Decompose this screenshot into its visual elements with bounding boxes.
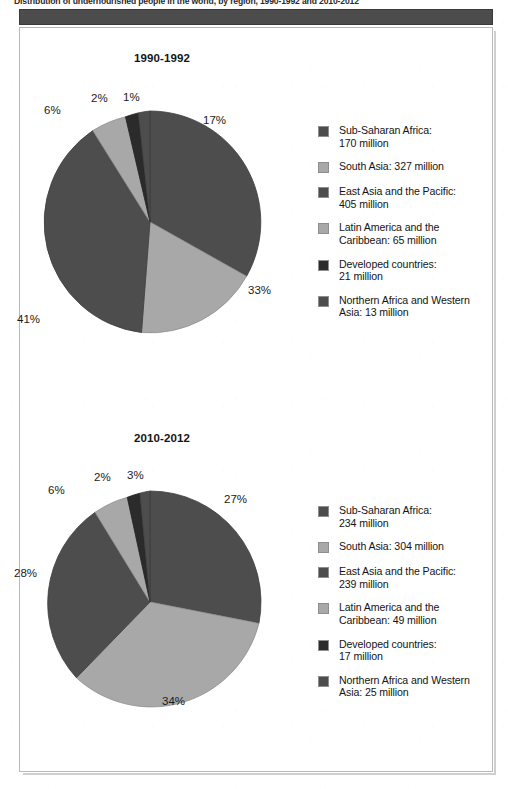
legend-1: Sub-Saharan Africa:170 million South Asi… (318, 124, 498, 330)
legend-item-east-asia-pacific-1[interactable]: East Asia and the Pacific:405 million (318, 185, 498, 210)
legend-label: Developed countries:21 million (339, 258, 437, 283)
pct-label-northern-africa-western-asia-1: 1% (123, 91, 140, 103)
legend-label: Northern Africa and WesternAsia: 25 mill… (339, 674, 470, 699)
legend-swatch-icon (318, 640, 329, 651)
legend-label: East Asia and the Pacific:405 million (339, 185, 456, 210)
legend-swatch-icon (318, 162, 329, 173)
pct-label-developed-countries-1: 2% (91, 92, 108, 104)
legend-item-latin-america-caribbean-2[interactable]: Latin America and theCaribbean: 49 milli… (318, 601, 498, 626)
legend-2: Sub-Saharan Africa:234 million South Asi… (318, 504, 498, 710)
legend-label: Latin America and theCaribbean: 65 milli… (339, 221, 439, 246)
legend-swatch-icon (318, 187, 329, 198)
pct-label-east-asia-pacific-1: 41% (17, 313, 40, 325)
chart-title-1: 1990-1992 (0, 52, 324, 64)
pie-svg-1 (34, 106, 266, 338)
pie-svg-2 (34, 486, 266, 718)
pct-label-northern-africa-western-asia-2: 3% (127, 469, 144, 481)
chart-title-2: 2010-2012 (0, 432, 324, 444)
pct-label-south-asia-1: 33% (248, 284, 271, 296)
legend-item-northern-africa-western-asia-2[interactable]: Northern Africa and WesternAsia: 25 mill… (318, 674, 498, 699)
legend-item-sub-saharan-africa-2[interactable]: Sub-Saharan Africa:234 million (318, 504, 498, 529)
pct-label-south-asia-2: 34% (162, 695, 185, 707)
legend-item-south-asia-2[interactable]: South Asia: 304 million (318, 540, 498, 553)
legend-swatch-icon (318, 126, 329, 137)
panel-shadow-bottom (23, 773, 496, 775)
legend-swatch-icon (318, 603, 329, 614)
legend-swatch-icon (318, 260, 329, 271)
page-title: Distribution of undernourished people in… (14, 0, 494, 6)
legend-item-latin-america-caribbean-1[interactable]: Latin America and theCaribbean: 65 milli… (318, 221, 498, 246)
legend-item-developed-countries-2[interactable]: Developed countries:17 million (318, 638, 498, 663)
pct-label-latin-america-caribbean-2: 6% (48, 484, 65, 496)
legend-item-sub-saharan-africa-1[interactable]: Sub-Saharan Africa:170 million (318, 124, 498, 149)
legend-label: Northern Africa and WesternAsia: 13 mill… (339, 294, 470, 319)
legend-swatch-icon (318, 567, 329, 578)
legend-label: East Asia and the Pacific:239 million (339, 565, 456, 590)
pct-label-sub-saharan-africa-2: 27% (224, 493, 247, 505)
header-bar (19, 9, 493, 25)
pct-label-latin-america-caribbean-1: 6% (44, 104, 61, 116)
legend-swatch-icon (318, 676, 329, 687)
legend-label: South Asia: 327 million (339, 160, 444, 173)
pct-label-developed-countries-2: 2% (94, 471, 111, 483)
legend-item-developed-countries-1[interactable]: Developed countries:21 million (318, 258, 498, 283)
legend-item-south-asia-1[interactable]: South Asia: 327 million (318, 160, 498, 173)
pct-label-east-asia-pacific-2: 28% (14, 567, 37, 579)
legend-swatch-icon (318, 223, 329, 234)
legend-swatch-icon (318, 296, 329, 307)
legend-label: Latin America and theCaribbean: 49 milli… (339, 601, 439, 626)
legend-label: Sub-Saharan Africa:234 million (339, 504, 432, 529)
pie-graphic-1 (34, 106, 266, 338)
legend-swatch-icon (318, 542, 329, 553)
pct-label-sub-saharan-africa-1: 17% (203, 114, 226, 126)
legend-swatch-icon (318, 506, 329, 517)
legend-item-northern-africa-western-asia-1[interactable]: Northern Africa and WesternAsia: 13 mill… (318, 294, 498, 319)
legend-item-east-asia-pacific-2[interactable]: East Asia and the Pacific:239 million (318, 565, 498, 590)
legend-label: Sub-Saharan Africa:170 million (339, 124, 432, 149)
legend-label: South Asia: 304 million (339, 540, 444, 553)
pie-graphic-2 (34, 486, 266, 718)
legend-label: Developed countries:17 million (339, 638, 437, 663)
pie-slice-sub-saharan-africa-2 (150, 491, 261, 623)
